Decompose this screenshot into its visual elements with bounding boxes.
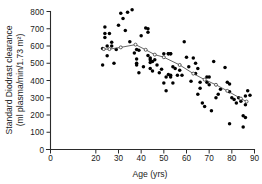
- data-point: [235, 101, 239, 105]
- data-point: [103, 25, 107, 29]
- x-tick-label: 30: [114, 154, 124, 163]
- x-axis-tick-labels: 02030405060708090: [48, 154, 259, 163]
- data-point: [153, 58, 157, 62]
- trend-point-marker: [226, 89, 229, 92]
- data-point: [169, 52, 173, 56]
- y-tick-label: 200: [30, 111, 44, 120]
- data-point: [210, 109, 214, 113]
- data-point: [246, 89, 250, 93]
- data-point: [112, 62, 116, 66]
- x-tick-label: 80: [227, 154, 237, 163]
- x-axis-title: Age (yrs): [133, 169, 168, 179]
- x-tick-label: 60: [182, 154, 192, 163]
- data-point: [110, 40, 114, 44]
- data-point: [169, 75, 173, 79]
- x-tick-label: 40: [137, 154, 147, 163]
- data-point: [244, 94, 248, 98]
- data-point: [207, 83, 211, 87]
- data-point: [121, 17, 125, 21]
- data-point: [146, 30, 150, 34]
- data-point: [198, 87, 202, 91]
- trend-point-marker: [192, 72, 195, 75]
- trend-point-marker: [134, 43, 137, 46]
- chart-canvas: 0100200300400500600700800 02030405060708…: [0, 0, 262, 184]
- x-axis-tick-marks: [51, 150, 255, 154]
- scatter-points-group: [101, 8, 252, 129]
- data-point: [158, 71, 162, 75]
- data-point: [198, 80, 202, 84]
- data-point: [130, 8, 134, 12]
- data-point: [135, 57, 139, 61]
- data-point: [137, 49, 141, 53]
- data-point: [244, 116, 248, 120]
- x-tick-label: 90: [250, 154, 260, 163]
- data-point: [155, 63, 159, 67]
- data-point: [137, 71, 141, 75]
- trend-point-marker: [102, 48, 105, 51]
- trend-line-markers: [102, 43, 248, 103]
- x-tick-label: 0: [48, 154, 53, 163]
- data-point: [105, 54, 109, 58]
- x-tick-label: 70: [205, 154, 215, 163]
- y-axis-tick-labels: 0100200300400500600700800: [30, 8, 44, 155]
- scatter-chart-figure: 0100200300400500600700800 02030405060708…: [0, 0, 262, 184]
- data-point: [162, 81, 166, 85]
- data-point: [207, 75, 211, 79]
- data-point: [164, 89, 168, 93]
- data-point: [117, 24, 121, 28]
- y-tick-label: 100: [30, 128, 44, 137]
- data-point: [196, 93, 200, 97]
- data-point: [178, 68, 182, 72]
- trend-point-marker: [144, 48, 147, 51]
- data-point: [146, 27, 150, 31]
- trend-point-marker: [203, 78, 206, 81]
- data-point: [176, 74, 180, 78]
- data-point: [135, 63, 139, 67]
- y-tick-label: 800: [30, 8, 44, 17]
- trend-point-marker: [108, 48, 111, 51]
- x-tick-label: 50: [159, 154, 169, 163]
- data-point: [214, 96, 218, 100]
- data-point: [139, 34, 143, 38]
- trend-point-marker: [245, 100, 248, 103]
- data-point: [212, 60, 216, 64]
- data-point: [228, 122, 232, 126]
- y-axis-title-line2: (ml plasma/min/1.73 m²): [15, 34, 25, 127]
- trend-line-path: [104, 45, 247, 102]
- trend-point-marker: [239, 97, 242, 100]
- data-point: [110, 44, 114, 48]
- x-tick-label: 20: [91, 154, 101, 163]
- trend-point-marker: [178, 63, 181, 66]
- data-point: [103, 32, 107, 36]
- data-point: [119, 11, 123, 15]
- data-point: [142, 65, 146, 69]
- data-point: [105, 44, 109, 48]
- y-tick-label: 300: [30, 94, 44, 103]
- data-point: [187, 65, 191, 69]
- data-point: [162, 52, 166, 56]
- data-point: [232, 98, 236, 102]
- data-point: [194, 62, 198, 66]
- data-point: [128, 40, 132, 44]
- y-tick-label: 700: [30, 25, 44, 34]
- data-point: [124, 29, 128, 33]
- data-point: [160, 68, 164, 72]
- data-point: [108, 32, 112, 36]
- y-tick-label: 600: [30, 42, 44, 51]
- data-point: [103, 36, 107, 40]
- data-point: [228, 82, 232, 86]
- trend-point-marker: [153, 53, 156, 56]
- data-point: [241, 125, 245, 129]
- data-point: [185, 55, 189, 59]
- data-point: [151, 69, 155, 73]
- data-point: [171, 81, 175, 85]
- y-tick-label: 400: [30, 77, 44, 86]
- data-point: [192, 56, 196, 60]
- data-point: [173, 67, 177, 71]
- data-point: [201, 101, 205, 105]
- y-tick-label: 500: [30, 59, 44, 68]
- data-point: [133, 51, 137, 55]
- y-axis-tick-marks: [47, 12, 51, 150]
- y-axis-title-line1: Standard Diodrast clearance: [4, 25, 14, 134]
- y-tick-label: 0: [39, 146, 44, 155]
